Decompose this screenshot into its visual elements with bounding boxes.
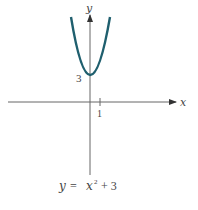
y-tick-label-3: 3 bbox=[76, 72, 82, 84]
svg-text:+ 3: + 3 bbox=[101, 179, 117, 193]
x-tick-label-1: 1 bbox=[97, 108, 102, 119]
equation-caption: y = x 2 + 3 bbox=[58, 178, 117, 193]
svg-text:y: y bbox=[58, 179, 66, 193]
x-axis-label: x bbox=[180, 96, 187, 109]
y-axis-label: y bbox=[85, 2, 93, 15]
svg-text:x: x bbox=[86, 179, 93, 193]
svg-text:=: = bbox=[70, 179, 77, 193]
svg-text:2: 2 bbox=[94, 178, 98, 186]
parabola-chart: y x 3 1 y = x 2 + 3 bbox=[0, 0, 198, 210]
